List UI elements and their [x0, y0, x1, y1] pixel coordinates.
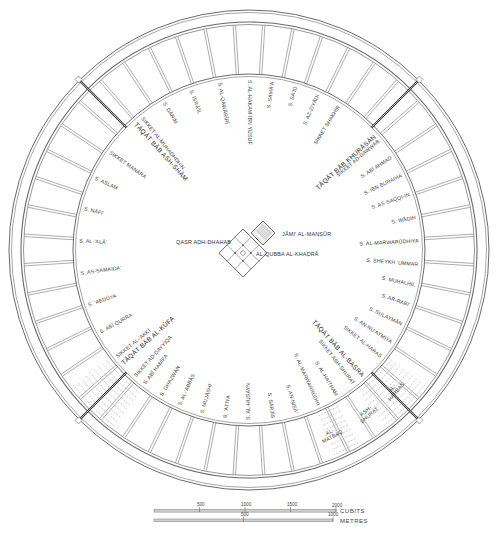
street-label: S. AS-SAMAIDA'	[80, 264, 122, 276]
scale-cubits-tick-500: 500	[197, 502, 205, 507]
special-block-label: AL-MATBAQ	[318, 423, 343, 444]
scale-metres-tick-500: 500	[241, 512, 249, 517]
scale-metres-tick-1000: 1000	[328, 512, 339, 517]
street-label: SIKKET SHAKHIR	[312, 104, 341, 145]
scale-cubits-tick-1500: 1500	[287, 502, 298, 507]
street-label: S. MUHALHIL	[381, 275, 416, 288]
palace-label: QAṢR ADH-DHAHAB	[176, 239, 231, 245]
mosque-label: JĀMI' AL-MANṢŪR	[282, 231, 331, 237]
street-label: S. AL-HAITHAM	[314, 360, 339, 397]
scale-bars: 500 1000 1500 2000 CUBITS 500 1000 METRE…	[154, 502, 368, 524]
special-block-label: ASH-SHURAT	[355, 401, 380, 424]
gate-label: ṬĀQĀT BĀB KHURĀSĀN	[314, 133, 378, 191]
street-label: S. DĀRIM	[162, 101, 179, 125]
street-label: S. AL-'ABBĀS	[177, 372, 197, 406]
street-label: S. AL-HAKAM IBN YŪSUF	[247, 80, 253, 145]
street-label: S. ABĪ AHMAD	[359, 154, 393, 179]
street-label: S. AL-'ALĀ'	[79, 237, 107, 244]
street-label: S. SULAYMĀN	[368, 305, 403, 326]
scale-cubits-tick-1000: 1000	[241, 502, 252, 507]
street-label: S. SAMĀ'A	[265, 81, 275, 109]
street-label: S. AS-SAQQI-IN	[371, 191, 411, 210]
street-label: S. ISRĀ'ĪL	[189, 89, 203, 115]
gate-labels: ṬĀQĀT BĀB ASH-SHĀMṬĀQĀT BĀB KHURĀSĀNṬĀQĀ…	[120, 121, 378, 379]
street-label: S. SA'ID	[287, 85, 298, 107]
street-label: S. ABĪ QURRA	[99, 311, 134, 334]
street-label: S. SHEYKH 'UMMAR	[366, 257, 419, 268]
street-label: S. AZ-ZIYĀDI	[301, 93, 320, 126]
central-complex: QAṢR ADH-DHAHAB JĀMI' AL-MANṢŪR AL-QUBBA…	[176, 221, 331, 277]
street-label: S. MUJĀSHI'	[199, 382, 214, 414]
special-block-label: AL-HARBAS	[382, 377, 405, 402]
street-label: S. AN-NISĀ'	[285, 384, 299, 414]
street-label: S. WĀḌIḤ	[391, 214, 417, 225]
street-label: SIKKET MANĀRA	[108, 150, 148, 180]
mosque-jami-al-mansur	[251, 221, 275, 245]
dome-icon	[240, 250, 247, 257]
street-label: S. 'ABDŪYA	[87, 292, 117, 307]
street-label: S. ASLAM	[94, 175, 119, 191]
dome-label: AL-QUBBA AL-KHAḌRĀ	[256, 251, 319, 257]
street-label: S. AL-HUSAYN	[245, 383, 251, 420]
street-label: SIKKET AL-MUHADHDHIN	[140, 116, 186, 171]
street-label: S. AL-MARWARŪDHIYA	[359, 237, 419, 246]
street-label: S. SARJĪS	[267, 392, 277, 419]
street-label: S. GHAZWĀN	[158, 364, 181, 397]
round-city-plan: AL-HARBASASH-SHURATAL-MATBAQ S. AL-HAKAM…	[0, 0, 498, 537]
street-label: S. AR-RABI'	[381, 292, 411, 307]
street-labels: S. AL-HAKAM IBN YŪSUFS. SAMĀ'AS. SA'IDS.…	[79, 80, 419, 420]
scale-metres-unit: METRES	[340, 518, 368, 524]
street-label: S. 'AṬIYA	[222, 394, 231, 418]
street-label: S. IBN BURAIHA	[363, 172, 403, 196]
street-label: S. NĀFI'	[83, 205, 104, 216]
street-label: S. AL-QAWĀRĪRĪ	[217, 82, 230, 125]
scale-cubits-unit: CUBITS	[340, 508, 365, 514]
street-label: SIKKET AD-DAWWĀB	[335, 138, 381, 178]
scale-bar-metres: 500 1000 METRES	[154, 512, 368, 524]
